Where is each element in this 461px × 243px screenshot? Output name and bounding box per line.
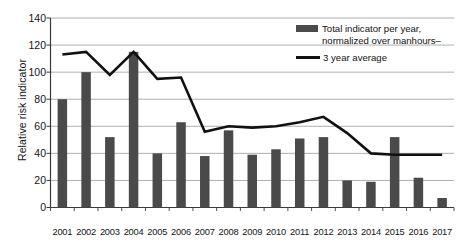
- x-axis-tick-label: 2005: [145, 227, 169, 237]
- y-axis-tick-label: 140: [20, 13, 46, 23]
- y-axis-tick-labels: 020406080100120140: [20, 0, 46, 243]
- chart-legend: Total indicator per year, normalized ove…: [296, 23, 441, 70]
- x-axis-tick-label: 2008: [217, 227, 241, 237]
- bar: [200, 156, 209, 207]
- x-axis-tick-label: 2007: [193, 227, 217, 237]
- legend-bar-label: Total indicator per year, normalized ove…: [322, 23, 441, 46]
- bar: [390, 137, 399, 207]
- bar-series: [58, 52, 447, 208]
- y-axis-tick-label: 40: [20, 148, 46, 158]
- bar: [366, 182, 375, 208]
- legend-item-line: 3 year average: [296, 52, 441, 64]
- y-axis-tick-label: 80: [20, 94, 46, 104]
- bar: [129, 52, 138, 208]
- x-axis-tick-label: 2006: [169, 227, 193, 237]
- bar: [319, 137, 328, 207]
- bar: [105, 137, 114, 207]
- bar: [271, 149, 280, 207]
- bar: [224, 130, 233, 207]
- legend-bar-swatch-icon: [296, 25, 318, 32]
- legend-item-bar: Total indicator per year, normalized ove…: [296, 23, 441, 46]
- x-axis-tick-label: 2013: [335, 227, 359, 237]
- bar: [58, 99, 67, 207]
- legend-line-swatch-icon: [296, 56, 320, 59]
- bar: [342, 180, 351, 207]
- risk-indicator-chart: Relative risk indicator 0204060801001201…: [0, 0, 461, 243]
- x-axis-tick-label: 2012: [312, 227, 336, 237]
- x-axis-tick-label: 2010: [264, 227, 288, 237]
- y-axis-tick-label: 0: [20, 202, 46, 212]
- y-axis-tick-label: 120: [20, 40, 46, 50]
- x-axis-tick-label: 2014: [359, 227, 383, 237]
- x-axis-tick-label: 2002: [74, 227, 98, 237]
- bar: [153, 153, 162, 207]
- x-axis-tick-label: 2009: [240, 227, 264, 237]
- x-axis-tick-label: 2004: [122, 227, 146, 237]
- bar: [176, 122, 185, 207]
- legend-line-label: 3 year average: [323, 52, 387, 64]
- x-axis-tick-label: 2017: [430, 227, 454, 237]
- x-axis-tick-label: 2003: [98, 227, 122, 237]
- bar: [437, 198, 446, 207]
- x-axis-tick-label: 2015: [383, 227, 407, 237]
- bar: [295, 138, 304, 207]
- bar: [414, 178, 423, 208]
- y-axis-tick-label: 20: [20, 175, 46, 185]
- y-axis-tick-label: 60: [20, 121, 46, 131]
- x-axis-tick-label: 2001: [51, 227, 75, 237]
- x-axis-tick-label: 2016: [407, 227, 431, 237]
- bar: [248, 155, 257, 208]
- y-axis-tick-label: 100: [20, 67, 46, 77]
- x-axis-tick-label: 2011: [288, 227, 312, 237]
- bar: [81, 72, 90, 207]
